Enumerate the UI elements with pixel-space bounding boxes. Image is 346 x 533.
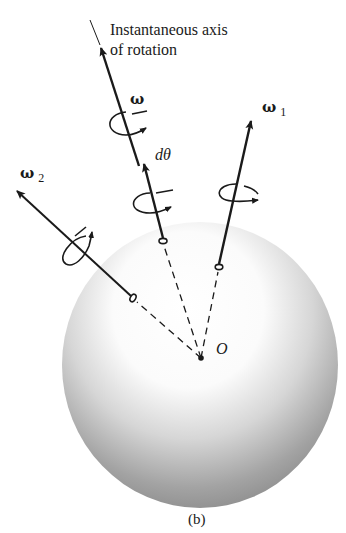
omega-label: ω [130,92,144,107]
axis-title-line-1: Instantaneous axis [110,22,228,38]
omega-2-label: ω2 [20,166,44,181]
axis-title-line-2: of rotation [110,42,177,58]
origin-label: O [216,341,228,357]
omega-2-vector [17,191,131,296]
omega-terminal-marker [159,238,167,243]
rotation-diagram [0,0,346,533]
d-theta-label: dθ [155,147,171,163]
origin-point [198,355,204,361]
omega-2-symbol: ω [20,164,34,182]
omega-1-label: ω1 [262,100,286,115]
sphere [62,222,338,508]
omega-2-subscript: 2 [38,171,44,185]
rotation-curl-icon-omega-1 [219,184,258,201]
instantaneous-axis-extension [90,20,100,45]
omega-1-symbol: ω [262,98,276,116]
figure-caption: (b) [188,512,206,527]
omega-1-subscript: 1 [280,105,286,119]
omega-1-terminal-marker [215,264,223,269]
d-theta-vector [144,164,163,238]
